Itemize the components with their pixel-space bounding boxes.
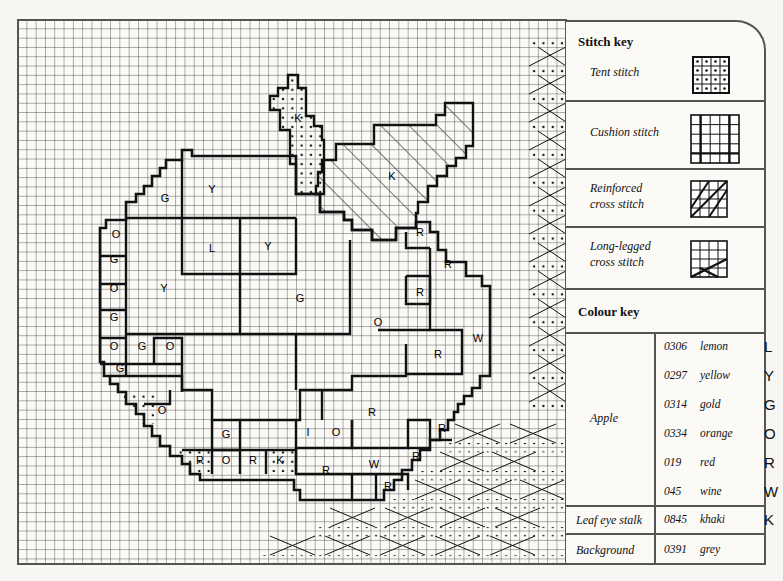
region-letter: R bbox=[438, 422, 446, 434]
region-letter: R bbox=[249, 454, 257, 466]
region-letter: R bbox=[416, 286, 424, 298]
tent-stitch-swatch-icon bbox=[692, 56, 730, 94]
region-letter: G bbox=[222, 428, 231, 440]
region-letter: Y bbox=[264, 240, 272, 252]
region-letter: O bbox=[374, 316, 383, 328]
region-letter: O bbox=[166, 340, 175, 352]
region-letter: Y bbox=[160, 282, 168, 294]
long-legged-cross-swatch-icon bbox=[690, 240, 728, 278]
reinforced-cross-label-1: Reinforced bbox=[590, 180, 642, 196]
reinforced-cross-label-2: cross stitch bbox=[590, 196, 644, 212]
region-letter: W bbox=[369, 458, 380, 470]
colour-group-leaf-eye-stalk: Leaf eye stalk 0845 khaki K bbox=[566, 507, 764, 535]
group-name-apple: Apple bbox=[590, 410, 618, 426]
column-divider bbox=[654, 507, 656, 533]
cushion-stitch-swatch-icon bbox=[690, 114, 740, 164]
cushion-stitch-label: Cushion stitch bbox=[590, 124, 659, 140]
region-letter: G bbox=[138, 340, 147, 352]
region-letter: O bbox=[110, 282, 119, 294]
region-letter: L bbox=[209, 242, 215, 254]
colour-group-background: Background 0391 grey bbox=[566, 535, 764, 565]
colour-group-apple: Apple 0306 lemon L 0297 yellow Y 0314 go… bbox=[566, 334, 764, 507]
region-letter: R bbox=[434, 348, 442, 360]
region-letter: I bbox=[306, 426, 309, 438]
long-legged-cross-label-1: Long-legged bbox=[590, 238, 651, 254]
region-letter: O bbox=[158, 404, 167, 416]
region-letter: G bbox=[110, 311, 119, 323]
region-letter: R bbox=[416, 226, 424, 238]
long-legged-cross-label-2: cross stitch bbox=[590, 254, 644, 270]
region-letter: G bbox=[161, 192, 170, 204]
stitch-key-cushion: Cushion stitch bbox=[566, 102, 764, 170]
region-letter: G bbox=[110, 253, 119, 265]
region-letter: K bbox=[294, 112, 302, 124]
group-name-background: Background bbox=[576, 542, 634, 558]
region-letter: R bbox=[444, 258, 452, 270]
tent-stitch-label: Tent stitch bbox=[590, 64, 639, 80]
region-letter: R bbox=[196, 454, 204, 466]
key-panel: Stitch key Tent stitch Cushion stitch Re… bbox=[566, 20, 766, 565]
region-letter: O bbox=[112, 228, 121, 240]
region-letter: O bbox=[332, 426, 341, 438]
region-letter: G bbox=[116, 362, 125, 374]
column-divider bbox=[654, 535, 656, 565]
colour-key-header: Colour key bbox=[566, 290, 764, 334]
region-letter: K bbox=[388, 170, 396, 182]
stitch-key-tent: Stitch key Tent stitch bbox=[566, 22, 764, 102]
region-letter: R bbox=[322, 464, 330, 476]
stitch-key-long-legged-cross: Long-legged cross stitch bbox=[566, 228, 764, 290]
region-letter: G bbox=[296, 292, 305, 304]
region-letter: R bbox=[384, 480, 392, 492]
stitch-key-title: Stitch key bbox=[578, 34, 633, 50]
region-letter: Y bbox=[208, 183, 216, 195]
reinforced-cross-swatch-icon bbox=[690, 180, 728, 218]
region-letter: R bbox=[412, 450, 420, 462]
region-letter: R bbox=[368, 406, 376, 418]
group-name-leaf-eye-stalk: Leaf eye stalk bbox=[576, 512, 642, 528]
region-letter: O bbox=[110, 340, 119, 352]
colour-key-title: Colour key bbox=[578, 304, 640, 320]
region-letter: K bbox=[276, 454, 284, 466]
column-divider bbox=[654, 334, 656, 505]
stitch-key-reinforced-cross: Reinforced cross stitch bbox=[566, 170, 764, 228]
region-letter: O bbox=[222, 454, 231, 466]
region-letter: W bbox=[473, 332, 484, 344]
